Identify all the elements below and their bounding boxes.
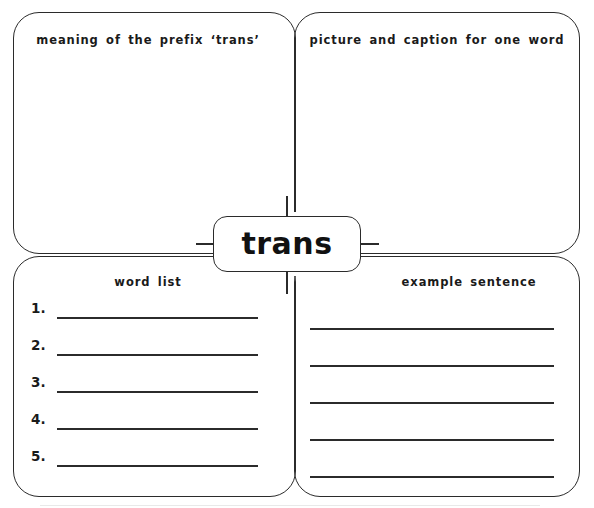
- example-sentence-writing-line[interactable]: [310, 328, 554, 330]
- example-sentence-row[interactable]: [294, 385, 580, 422]
- center-prefix-box[interactable]: trans: [213, 216, 361, 272]
- example-sentence-row[interactable]: [294, 348, 580, 385]
- example-sentence-writing-line[interactable]: [310, 476, 554, 478]
- word-list-row[interactable]: 2.: [13, 337, 296, 374]
- word-list-writing-line[interactable]: [57, 354, 258, 356]
- word-list-writing-line[interactable]: [57, 428, 258, 430]
- example-sentence-row[interactable]: [294, 459, 580, 496]
- word-list-writing-line[interactable]: [57, 317, 258, 319]
- quadrant-label-example-sentence: example sentence: [294, 275, 580, 289]
- quadrant-label-picture: picture and caption for one word: [294, 33, 580, 47]
- word-list-row[interactable]: 1.: [13, 300, 296, 337]
- word-list-row[interactable]: 5.: [13, 448, 296, 485]
- connector-line-right: [359, 243, 379, 245]
- word-list-number: 3.: [31, 374, 46, 390]
- example-sentence-writing-line[interactable]: [310, 439, 554, 441]
- example-sentence-rows: [294, 311, 580, 496]
- example-sentence-writing-line[interactable]: [310, 402, 554, 404]
- quadrant-label-meaning: meaning of the prefix ‘trans’: [0, 33, 296, 47]
- prefix-graphic-organizer: meaning of the prefix ‘trans’ picture an…: [0, 0, 594, 508]
- page-edge-artifact: [40, 505, 540, 506]
- connector-line-up: [286, 196, 288, 218]
- word-list-row[interactable]: 3.: [13, 374, 296, 411]
- word-list-rows: 1. 2. 3. 4. 5.: [13, 300, 296, 485]
- word-list-number: 4.: [31, 411, 46, 427]
- center-prefix-word: trans: [241, 229, 332, 259]
- word-list-number: 1.: [31, 300, 46, 316]
- example-sentence-row[interactable]: [294, 422, 580, 459]
- word-list-number: 5.: [31, 448, 46, 464]
- quadrant-label-word-list: word list: [0, 275, 296, 289]
- example-sentence-row[interactable]: [294, 311, 580, 348]
- connector-line-down: [286, 270, 288, 294]
- word-list-writing-line[interactable]: [57, 465, 258, 467]
- word-list-row[interactable]: 4.: [13, 411, 296, 448]
- word-list-writing-line[interactable]: [57, 391, 258, 393]
- word-list-number: 2.: [31, 337, 46, 353]
- example-sentence-writing-line[interactable]: [310, 365, 554, 367]
